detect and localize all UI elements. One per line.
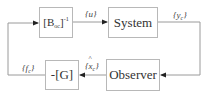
inverse-boc-block: [Boc]-1: [39, 7, 73, 38]
observer-label: Observer: [109, 67, 157, 83]
signal-xc-hat-label: {xc}: [85, 61, 99, 72]
system-label: System: [114, 15, 152, 31]
signal-u-label: {u}: [85, 9, 97, 19]
gain-label: -[G]: [51, 67, 73, 83]
inverse-boc-label: [Boc]-1: [43, 16, 68, 29]
edge-yc: [158, 22, 200, 75]
observer-block: Observer: [106, 59, 160, 91]
gain-block: -[G]: [45, 60, 79, 90]
signal-yc-label: {yc}: [173, 10, 187, 21]
system-block: System: [108, 7, 158, 38]
signal-fc-label: {fc}: [22, 63, 34, 74]
